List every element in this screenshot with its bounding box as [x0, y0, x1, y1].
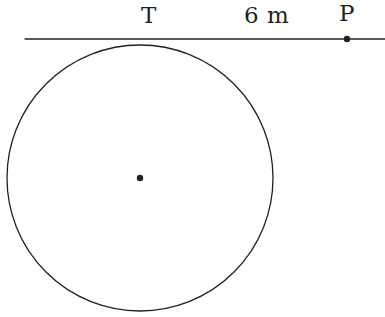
tangent-point-label: T [141, 4, 156, 27]
external-point-label: P [339, 2, 354, 25]
point-p-marker [344, 36, 350, 42]
circle-center-point [137, 175, 143, 181]
geometry-figure: T 6 m P [0, 0, 385, 317]
diagram-canvas [0, 0, 385, 317]
segment-length-label: 6 m [244, 4, 289, 27]
